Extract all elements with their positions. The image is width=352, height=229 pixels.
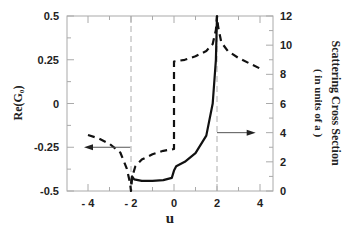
x-tick-label: 2 [214, 197, 220, 209]
y-right-tick-label: 0 [280, 185, 286, 197]
y-left-tick-label: 0 [53, 98, 59, 110]
y-right-tick-label: 4 [280, 127, 287, 139]
y-left-tick-label: -0.25 [34, 141, 59, 153]
y-right-tick-label: 10 [280, 39, 292, 51]
left-axis-title: Re(G₀) [11, 86, 25, 121]
y-right-tick-label: 6 [280, 98, 286, 110]
arrow-left-icon [84, 144, 93, 150]
x-axis-title: u [166, 210, 174, 226]
y-left-tick-label: 0.5 [44, 10, 59, 22]
y-right-tick-label: 8 [280, 68, 286, 80]
y-right-tick-label: 2 [280, 156, 286, 168]
y-right-tick-label: 12 [280, 10, 292, 22]
axis-ticks [67, 16, 273, 191]
right-axis-subtitle: ( in units of a ) [312, 69, 325, 137]
data-series [88, 16, 260, 191]
arrow-right-icon [247, 130, 256, 136]
y-left-tick-label: 0.25 [38, 54, 59, 66]
x-tick-label: 4 [257, 197, 264, 209]
chart-canvas: - 4- 20240.50.250-0.25-0.5121086420 u Re… [0, 0, 352, 229]
dashed-series-reG0 [88, 16, 260, 191]
x-tick-label: - 4 [82, 197, 96, 209]
plot-border [67, 16, 273, 191]
reference-lines [131, 16, 217, 191]
right-axis-title: Scattering Cross Section [329, 40, 343, 165]
plot-frame [67, 16, 273, 191]
axis-indicator-arrows [84, 130, 256, 151]
x-tick-label: - 2 [125, 197, 138, 209]
y-left-tick-label: -0.5 [40, 185, 59, 197]
x-tick-label: 0 [171, 197, 177, 209]
